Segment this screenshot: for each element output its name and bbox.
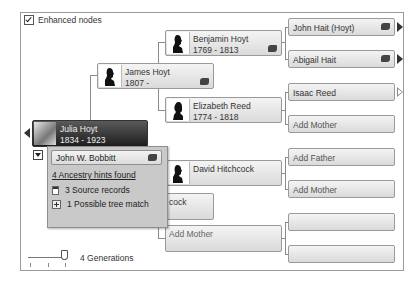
generations-label: 4 Generations bbox=[80, 253, 133, 263]
silhouette-icon bbox=[167, 32, 190, 54]
empty-node[interactable] bbox=[288, 213, 395, 231]
person-node-hitchcock-partial[interactable]: cock bbox=[160, 193, 214, 220]
person-node-john-hait[interactable]: John Hait (Hoyt) bbox=[288, 18, 395, 36]
slider-tick bbox=[48, 263, 49, 267]
add-mother-node[interactable]: Add Mother bbox=[288, 115, 395, 133]
connector-line bbox=[158, 42, 165, 43]
add-mother-node[interactable]: Add Mother bbox=[165, 225, 282, 252]
connector-line bbox=[158, 238, 165, 239]
empty-node[interactable] bbox=[288, 245, 395, 263]
ancestry-hints-link[interactable]: 4 Ancestry hints found bbox=[52, 170, 136, 180]
spouse-hints-popup: John W. Bobbitt 4 Ancestry hints found 3… bbox=[47, 146, 168, 228]
person-node-elizabeth-reed[interactable]: Elizabeth Reed 1774 - 1818 bbox=[165, 97, 282, 123]
person-node-isaac-reed[interactable]: Isaac Reed bbox=[288, 83, 395, 101]
person-node-abigail-hait[interactable]: Abigail Hait bbox=[288, 50, 395, 68]
connector-line bbox=[285, 27, 286, 59]
person-node-david-hitchcock[interactable]: David Hitchcock bbox=[165, 160, 282, 186]
silhouette-icon bbox=[167, 99, 190, 121]
tree-match-icon bbox=[52, 200, 61, 209]
silhouette-icon bbox=[167, 162, 190, 184]
person-photo bbox=[34, 122, 56, 145]
add-father-node[interactable]: Add Father bbox=[288, 148, 395, 166]
connector-line bbox=[90, 75, 91, 120]
slider-tick bbox=[30, 263, 31, 267]
expand-right-arrow-icon[interactable] bbox=[397, 22, 403, 32]
hint-leaf-icon[interactable] bbox=[148, 154, 157, 161]
add-mother-node[interactable]: Add Mother bbox=[288, 180, 395, 198]
silhouette-icon bbox=[99, 65, 122, 87]
focus-person-node[interactable]: Julia Hoyt 1834 - 1923 bbox=[32, 120, 148, 147]
enhanced-nodes-option[interactable]: Enhanced nodes bbox=[24, 15, 102, 25]
person-node-james-hoyt[interactable]: James Hoyt 1807 - bbox=[97, 63, 214, 89]
generations-slider-thumb[interactable] bbox=[61, 250, 68, 260]
connector-line bbox=[285, 92, 286, 124]
spouse-dropdown-button[interactable] bbox=[33, 150, 43, 160]
expand-left-arrow-icon[interactable] bbox=[24, 128, 30, 138]
spouse-node[interactable]: John W. Bobbitt bbox=[51, 150, 162, 165]
slider-tick bbox=[65, 263, 66, 267]
tree-match-item[interactable]: 1 Possible tree match bbox=[52, 199, 149, 209]
source-records-item[interactable]: 3 Source records bbox=[52, 185, 130, 195]
connector-line bbox=[158, 110, 165, 111]
connector-line bbox=[285, 222, 286, 254]
enhanced-nodes-label: Enhanced nodes bbox=[38, 15, 102, 25]
hint-leaf-icon[interactable] bbox=[381, 23, 390, 30]
expand-right-hollow-arrow-icon[interactable] bbox=[397, 87, 403, 97]
hint-leaf-icon[interactable] bbox=[268, 45, 277, 52]
enhanced-nodes-checkbox[interactable] bbox=[24, 15, 34, 25]
hint-leaf-icon[interactable] bbox=[200, 78, 209, 85]
connector-line bbox=[90, 75, 97, 76]
person-node-benjamin-hoyt[interactable]: Benjamin Hoyt 1769 - 1813 bbox=[165, 30, 282, 56]
hint-leaf-icon[interactable] bbox=[381, 55, 390, 62]
connector-line bbox=[285, 157, 286, 189]
source-record-icon bbox=[52, 186, 59, 195]
expand-right-arrow-icon[interactable] bbox=[397, 54, 403, 64]
